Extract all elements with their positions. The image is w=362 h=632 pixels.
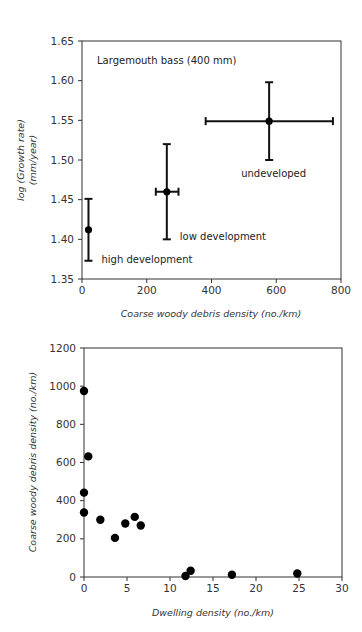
point-label: high development bbox=[101, 254, 192, 265]
data-point bbox=[121, 519, 129, 527]
top-x-tick-label: 400 bbox=[201, 284, 221, 296]
bottom-y-tick-label: 200 bbox=[56, 532, 76, 544]
bottom-data-points bbox=[80, 387, 302, 581]
top-y-tick-label: 1.55 bbox=[51, 114, 74, 126]
svg-text:log (Growth rate): log (Growth rate) bbox=[15, 119, 26, 201]
data-point-low-development: low development bbox=[156, 144, 266, 242]
bottom-x-axis-title: Dwelling density (no./km) bbox=[152, 607, 274, 618]
top-y-tick-label: 1.65 bbox=[51, 35, 74, 47]
bottom-x-tick-label: 0 bbox=[81, 582, 88, 594]
data-point-undeveloped: undeveloped bbox=[206, 82, 333, 179]
data-point bbox=[80, 387, 88, 395]
chart-canvas: 1.351.401.451.501.551.601.65 02004006008… bbox=[0, 0, 362, 632]
data-point bbox=[131, 513, 139, 521]
bottom-y-tick-label: 1000 bbox=[49, 380, 76, 392]
data-point bbox=[111, 534, 119, 542]
chart-annotation: Largemouth bass (400 mm) bbox=[97, 55, 236, 66]
data-point bbox=[96, 516, 104, 524]
bottom-x-tick-label: 20 bbox=[249, 582, 262, 594]
top-y-tick-label: 1.45 bbox=[51, 193, 74, 205]
point-label: undeveloped bbox=[241, 168, 306, 179]
top-x-axis: 0200400600800 bbox=[79, 279, 351, 296]
bottom-x-tick-label: 30 bbox=[335, 582, 348, 594]
bottom-y-axis-title: Coarse woody debris density (no./km) bbox=[27, 372, 38, 553]
top-data-points: high developmentlow developmentundevelop… bbox=[84, 82, 332, 265]
growth-rate-chart: 1.351.401.451.501.551.601.65 02004006008… bbox=[15, 35, 351, 320]
top-x-tick-label: 800 bbox=[331, 284, 351, 296]
data-point-high-development: high development bbox=[84, 199, 192, 265]
data-point bbox=[84, 452, 92, 460]
top-x-tick-label: 200 bbox=[137, 284, 157, 296]
top-x-tick-label: 0 bbox=[79, 284, 86, 296]
dwelling-debris-chart: 020040060080010001200 051015202530 Dwell… bbox=[27, 342, 349, 619]
bottom-x-tick-label: 10 bbox=[163, 582, 176, 594]
top-plot-frame bbox=[82, 41, 341, 279]
data-point bbox=[186, 567, 194, 575]
bottom-y-axis: 020040060080010001200 bbox=[49, 342, 84, 583]
top-y-axis: 1.351.401.451.501.551.601.65 bbox=[51, 35, 82, 285]
bottom-y-tick-label: 0 bbox=[69, 571, 76, 583]
bottom-x-tick-label: 15 bbox=[206, 582, 219, 594]
top-x-axis-title: Coarse woody debris density (no./km) bbox=[121, 308, 302, 319]
top-y-tick-label: 1.35 bbox=[51, 273, 74, 285]
data-point bbox=[228, 571, 236, 579]
top-y-tick-label: 1.40 bbox=[51, 233, 74, 245]
data-point bbox=[80, 508, 88, 516]
top-x-tick-label: 600 bbox=[266, 284, 286, 296]
top-y-tick-label: 1.60 bbox=[51, 74, 74, 86]
top-y-tick-label: 1.50 bbox=[51, 154, 74, 166]
top-y-axis-title: log (Growth rate) (mm/year) bbox=[15, 119, 38, 201]
data-point bbox=[293, 569, 301, 577]
bottom-x-tick-label: 5 bbox=[124, 582, 131, 594]
bottom-y-tick-label: 800 bbox=[56, 418, 76, 430]
data-point bbox=[80, 488, 88, 496]
bottom-y-tick-label: 400 bbox=[56, 494, 76, 506]
bottom-y-tick-label: 1200 bbox=[49, 342, 76, 354]
bottom-x-tick-label: 25 bbox=[292, 582, 305, 594]
point-label: low development bbox=[180, 231, 266, 242]
bottom-y-tick-label: 600 bbox=[56, 456, 76, 468]
data-point bbox=[137, 521, 145, 529]
bottom-x-axis: 051015202530 bbox=[81, 577, 349, 594]
svg-text:(mm/year): (mm/year) bbox=[27, 135, 38, 185]
bottom-plot-frame bbox=[84, 348, 342, 577]
